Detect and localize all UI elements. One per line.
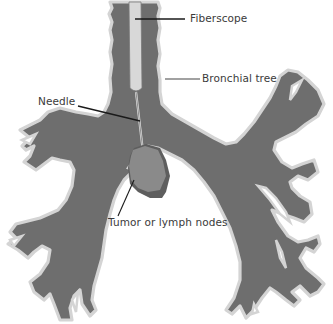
fiberscope-label: Fiberscope: [190, 12, 247, 24]
tumor-label: Tumor or lymph nodes: [108, 216, 228, 228]
needle-label: Needle: [38, 95, 75, 107]
bronchial-tree-diagram: [0, 0, 333, 324]
bronchial-tree-label: Bronchial tree: [202, 72, 277, 84]
